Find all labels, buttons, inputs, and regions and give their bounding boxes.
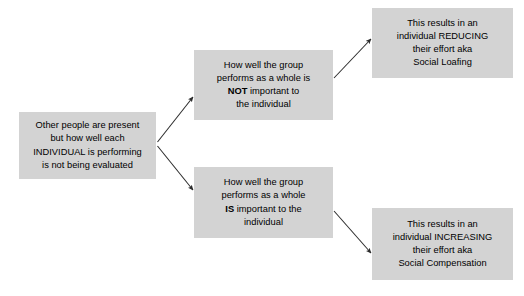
node-source-label: Other people are present but how well ea… xyxy=(19,119,156,172)
node-source: Other people are present but how well ea… xyxy=(19,112,156,179)
node-condition-not-important: How well the group performs as a whole i… xyxy=(194,50,333,120)
node-condition-is-important-label: How well the group performs as a whole I… xyxy=(194,176,333,229)
node-condition-is-important: How well the group performs as a whole I… xyxy=(194,167,333,238)
edge-not-to-loafing xyxy=(334,39,371,78)
emphasis-is: IS xyxy=(225,204,234,214)
node-outcome-social-loafing-label: This results in an individual REDUCING t… xyxy=(372,17,513,70)
node-condition-not-important-label: How well the group performs as a whole i… xyxy=(194,59,333,112)
edge-source-to-not xyxy=(158,97,194,142)
edge-is-to-compensation xyxy=(334,211,371,253)
node-outcome-social-compensation-label: This results in an individual INCREASING… xyxy=(372,218,513,271)
flowchart-canvas: Other people are present but how well ea… xyxy=(0,0,524,296)
node-outcome-social-compensation: This results in an individual INCREASING… xyxy=(372,208,513,280)
node-outcome-social-loafing: This results in an individual REDUCING t… xyxy=(372,8,513,78)
edge-source-to-is xyxy=(158,146,194,190)
emphasis-not: NOT xyxy=(228,86,248,96)
